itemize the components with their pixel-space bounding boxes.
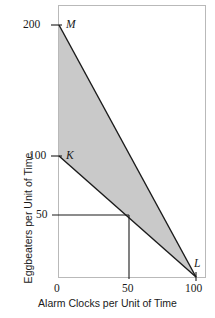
- x-axis-tick-label-100: 100: [185, 283, 202, 295]
- y-axis-tick-label-200: 200: [23, 19, 40, 31]
- x-axis-tick-label-0: 0: [54, 283, 60, 295]
- point-label-l: L: [194, 258, 200, 270]
- y-axis-title: Eggbeaters per Unit of Time: [22, 138, 34, 298]
- x-axis-tick-label-50: 50: [122, 283, 134, 295]
- point-label-k: K: [66, 150, 74, 162]
- y-axis-tick-label-50: 50: [36, 209, 48, 221]
- x-axis-title: Alarm Clocks per Unit of Time: [0, 297, 215, 309]
- production-possibility-chart: 200 100 50 0 50 100 M K L Alarm Clocks p…: [0, 0, 215, 318]
- point-label-m: M: [66, 19, 76, 31]
